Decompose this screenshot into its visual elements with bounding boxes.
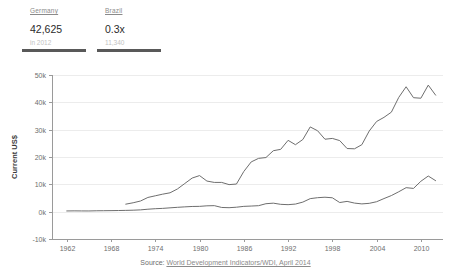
source-label: Source: (140, 259, 164, 266)
x-tick-label: 1992 (281, 245, 297, 252)
stat-name-germany[interactable]: Germany (30, 6, 110, 15)
x-tick-label: 1998 (325, 245, 341, 252)
stat-underline-germany (22, 49, 86, 52)
grid-lines (52, 76, 443, 240)
line-chart: -10k0k10k20k30k40k50k 196219681974198019… (0, 64, 451, 260)
y-tick-label: -10k (32, 236, 46, 243)
source-footer: Source: World Development Indicators/WDI… (0, 259, 451, 266)
y-tick-label: 0k (39, 209, 47, 216)
source-link[interactable]: World Development Indicators/WDI, April … (166, 259, 310, 266)
y-tick-label: 30k (35, 127, 47, 134)
stat-block-brazil: Brazil 0.3x 11,340 (105, 6, 185, 47)
series-line-brazil (67, 176, 436, 211)
series-lines (67, 85, 436, 211)
x-tick-label: 2010 (414, 245, 430, 252)
stat-sub-brazil: 11,340 (105, 38, 185, 47)
x-tick-label: 1962 (60, 245, 76, 252)
header-stats-bar: Germany 42,625 in 2012 Brazil 0.3x 11,34… (0, 0, 451, 64)
stat-sub-germany: in 2012 (30, 38, 110, 47)
x-axis-ticks: 196219681974198019861992199820042010 (60, 239, 430, 252)
y-tick-label: 40k (35, 99, 47, 106)
stat-block-germany: Germany 42,625 in 2012 (30, 6, 110, 47)
x-tick-label: 1986 (237, 245, 253, 252)
y-axis-ticks: -10k0k10k20k30k40k50k (32, 72, 52, 243)
y-tick-label: 20k (35, 154, 47, 161)
y-tick-label: 10k (35, 181, 47, 188)
y-tick-label: 50k (35, 72, 47, 79)
stat-underline-brazil (97, 49, 161, 52)
x-tick-label: 2004 (370, 245, 386, 252)
y-axis-title: Current US$ (10, 134, 19, 179)
x-tick-label: 1968 (104, 245, 120, 252)
stat-name-brazil[interactable]: Brazil (105, 6, 185, 15)
x-tick-label: 1980 (193, 245, 209, 252)
stat-value-brazil: 0.3x (105, 22, 185, 37)
x-tick-label: 1974 (148, 245, 164, 252)
stat-value-germany: 42,625 (30, 22, 110, 37)
chart-svg: -10k0k10k20k30k40k50k 196219681974198019… (0, 64, 451, 260)
